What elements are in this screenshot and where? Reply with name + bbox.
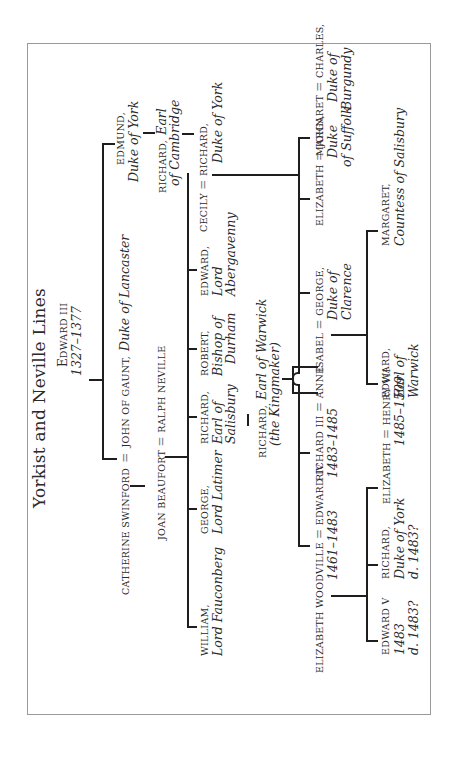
node-edward-v: EDWARD V bbox=[379, 597, 393, 655]
richard-iii-dates: 1483–1485 bbox=[326, 408, 340, 478]
branch-edward-v bbox=[366, 640, 378, 642]
family-tree: Yorkist and Neville Lines EDWARD III 132… bbox=[27, 43, 432, 716]
margaret-york-title-2: Burgundy bbox=[340, 48, 354, 110]
node-edward-warwick: EDWARD, bbox=[379, 348, 393, 398]
richard-salisbury-title-2: Salisbury bbox=[224, 384, 238, 444]
clarence-marriage-stem bbox=[331, 334, 367, 336]
robert-title-2: Durham bbox=[224, 313, 238, 364]
node-beaufort-neville: JOAN BEAUFORT = RALPH NEVILLE bbox=[154, 345, 169, 540]
edward-iii-children-bar bbox=[102, 143, 104, 460]
warwick-epithet: (the Kingmaker) bbox=[268, 342, 282, 446]
edward-abergavenny-title-2: Abergavenny bbox=[224, 213, 238, 296]
margaret-salisbury-title: Countess of Salisbury bbox=[393, 108, 407, 246]
branch-george-clarence bbox=[298, 292, 310, 294]
clarence-children-bar bbox=[366, 230, 368, 385]
richard-cambridge-title: of Cambridge bbox=[168, 100, 182, 186]
branch-margaret-salisbury bbox=[366, 230, 378, 232]
edmund-title: Duke of York bbox=[127, 101, 141, 182]
neville-children-bar bbox=[187, 173, 189, 628]
margaret-york-title-1: Duke of bbox=[326, 53, 340, 102]
edward-warwick-title-2: Warwick bbox=[407, 344, 421, 398]
branch-richard-salisbury bbox=[187, 416, 197, 418]
elizabeth-york-title-2: of Suffolk bbox=[340, 106, 354, 167]
elizabeth-york-title-1: Duke bbox=[326, 125, 340, 158]
richard-duke-york-death: d. 1483? bbox=[407, 525, 421, 579]
cambridge-to-york-link bbox=[182, 133, 194, 135]
branch-george-latimer bbox=[187, 508, 197, 510]
branch-edward-abergavenny bbox=[187, 269, 197, 271]
beaufort-neville-stem bbox=[165, 456, 189, 458]
gaunt-to-beaufort-link bbox=[130, 485, 145, 487]
node-cecily-richard: CECILY = RICHARD, bbox=[196, 123, 211, 232]
george-latimer-title: Lord Latimer bbox=[211, 450, 225, 534]
edward-warwick-title-1: Earl of bbox=[393, 355, 407, 398]
line-crossing-hop bbox=[292, 372, 300, 386]
gaunt-branch bbox=[102, 458, 117, 460]
node-richard-duke-york: RICHARD, bbox=[379, 526, 393, 579]
branch-robert bbox=[187, 348, 197, 350]
edward-iii-stem bbox=[89, 379, 103, 381]
edward-iii-dates: 1327–1377 bbox=[70, 306, 84, 376]
salisbury-to-warwick-link bbox=[247, 414, 249, 426]
edward-v-death: d. 1483? bbox=[407, 601, 421, 655]
george-clarence-title-1: Duke of bbox=[326, 271, 340, 320]
richard-york-title: Duke of York bbox=[211, 82, 225, 163]
branch-edward-iv bbox=[298, 545, 310, 547]
richard-duke-york-title: Duke of York bbox=[393, 498, 407, 579]
branch-edward-warwick bbox=[366, 383, 378, 385]
branch-elizabeth-york bbox=[298, 198, 310, 200]
branch-richard-duke-york bbox=[366, 564, 378, 566]
edward-iv-dates: 1461–1483 bbox=[326, 510, 340, 580]
william-title: Lord Fauconberg bbox=[211, 547, 225, 656]
node-gaunt: CATHERINE SWINFORD = JOHN OF GAUNT, Duke… bbox=[117, 235, 133, 595]
york-marriage-stem bbox=[212, 174, 299, 176]
node-margaret-salisbury: MARGARET, bbox=[379, 183, 393, 246]
branch-margaret-york bbox=[298, 137, 310, 139]
branch-william bbox=[187, 626, 197, 628]
branch-richard-iii bbox=[298, 452, 310, 454]
branch-elizabeth-of-york bbox=[366, 487, 378, 489]
edward-iv-marriage-stem bbox=[331, 595, 367, 597]
edward-v-reign: 1483 bbox=[393, 623, 407, 655]
diagram-title: Yorkist and Neville Lines bbox=[32, 288, 46, 508]
george-clarence-title-2: Clarence bbox=[340, 263, 354, 320]
